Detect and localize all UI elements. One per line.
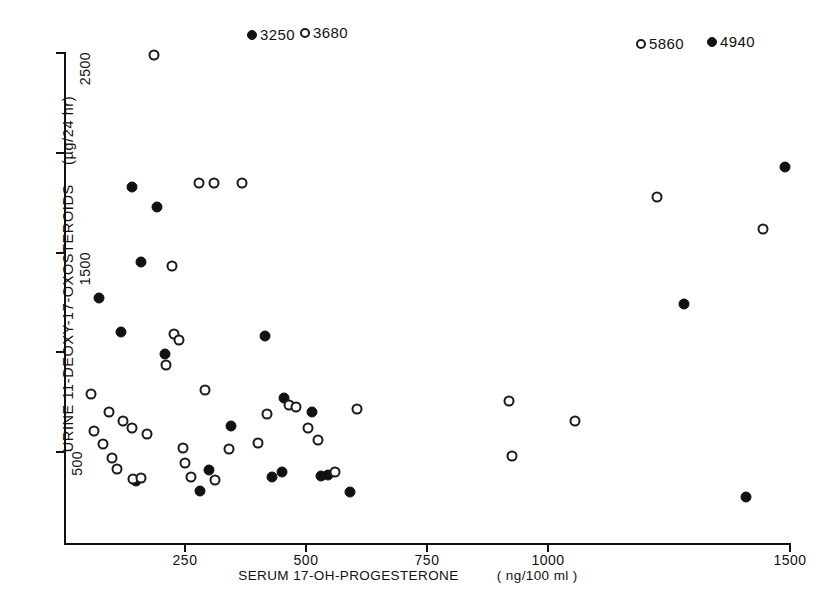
data-point-open	[651, 191, 662, 202]
data-point-open	[89, 426, 100, 437]
data-point-open	[194, 177, 205, 188]
data-point-open	[569, 416, 580, 427]
data-point-filled	[259, 331, 270, 342]
data-point-open	[166, 261, 177, 272]
y-axis-unit-text: (µg/24 hr)	[60, 96, 76, 165]
x-axis-unit-text: ( ng/100 ml )	[497, 568, 578, 583]
x-tick-1500	[789, 543, 791, 552]
offscale-value-label: 3250	[260, 26, 295, 43]
x-tick-500	[305, 543, 307, 552]
x-tick-label-250: 250	[173, 552, 198, 568]
y-tick-500	[56, 451, 65, 453]
scatter-plot-figure: URINE 11-DEOXY-17-OXOSTEROIDS (µg/24 hr)…	[0, 0, 816, 612]
offscale-annotation: 4940	[707, 33, 755, 50]
data-point-filled	[159, 349, 170, 360]
data-point-filled	[344, 486, 355, 497]
data-point-open	[504, 396, 515, 407]
data-point-open	[262, 409, 273, 420]
data-point-filled	[741, 491, 752, 502]
offscale-annotation: 3250	[247, 26, 295, 43]
data-point-open	[237, 177, 248, 188]
data-point-open	[200, 385, 211, 396]
x-axis-label-text: SERUM 17-OH-PROGESTERONE	[238, 568, 458, 583]
y-axis-line	[64, 52, 66, 545]
offscale-value-label: 5860	[649, 35, 684, 52]
x-tick-label-500: 500	[294, 552, 319, 568]
data-point-filled	[116, 327, 127, 338]
data-point-filled	[126, 181, 137, 192]
data-point-open	[160, 360, 171, 371]
data-point-open	[107, 452, 118, 463]
data-point-open	[97, 439, 108, 450]
offscale-marker-open	[300, 28, 310, 38]
data-point-open	[210, 474, 221, 485]
data-point-open	[330, 466, 341, 477]
data-point-open	[313, 435, 324, 446]
y-tick-2000	[56, 152, 65, 154]
data-point-filled	[195, 485, 206, 496]
data-point-open	[86, 389, 97, 400]
data-point-open	[303, 423, 314, 434]
data-point-filled	[225, 421, 236, 432]
y-tick-label-2500: 2500	[77, 52, 93, 85]
data-point-open	[136, 472, 147, 483]
y-tick-label-1500: 1500	[77, 252, 93, 285]
offscale-value-label: 3680	[313, 24, 348, 41]
data-point-filled	[780, 161, 791, 172]
x-axis-label: SERUM 17-OH-PROGESTERONE ( ng/100 ml )	[0, 568, 816, 583]
data-point-open	[126, 423, 137, 434]
x-tick-label-1000: 1000	[531, 552, 564, 568]
data-point-filled	[93, 293, 104, 304]
data-point-open	[291, 402, 302, 413]
data-point-filled	[678, 299, 689, 310]
data-point-open	[185, 471, 196, 482]
data-point-open	[252, 438, 263, 449]
y-axis-label: URINE 11-DEOXY-17-OXOSTEROIDS (µg/24 hr)	[60, 34, 76, 514]
data-point-filled	[306, 407, 317, 418]
data-point-filled	[136, 257, 147, 268]
data-point-filled	[152, 201, 163, 212]
data-point-open	[174, 335, 185, 346]
offscale-value-label: 4940	[720, 33, 755, 50]
y-tick-1000	[56, 351, 65, 353]
data-point-open	[223, 444, 234, 455]
y-tick-2500	[56, 52, 65, 54]
x-tick-250	[184, 543, 186, 552]
data-point-open	[351, 404, 362, 415]
y-axis-label-text: URINE 11-DEOXY-17-OXOSTEROIDS	[60, 184, 76, 452]
data-point-open	[506, 450, 517, 461]
x-tick-750	[426, 543, 428, 552]
data-point-open	[103, 407, 114, 418]
offscale-marker-filled	[247, 30, 257, 40]
x-tick-1000	[547, 543, 549, 552]
y-tick-1500	[56, 252, 65, 254]
offscale-annotation: 3680	[300, 24, 348, 41]
data-point-open	[142, 429, 153, 440]
x-tick-label-1500: 1500	[773, 552, 806, 568]
data-point-filled	[276, 466, 287, 477]
data-point-open	[758, 223, 769, 234]
offscale-marker-open	[636, 39, 646, 49]
data-point-open	[209, 177, 220, 188]
data-point-open	[180, 457, 191, 468]
data-point-open	[148, 49, 159, 60]
data-point-open	[112, 463, 123, 474]
data-point-open	[177, 443, 188, 454]
offscale-marker-filled	[707, 37, 717, 47]
x-tick-label-750: 750	[415, 552, 440, 568]
y-tick-label-500: 500	[69, 451, 85, 476]
offscale-annotation: 5860	[636, 35, 684, 52]
